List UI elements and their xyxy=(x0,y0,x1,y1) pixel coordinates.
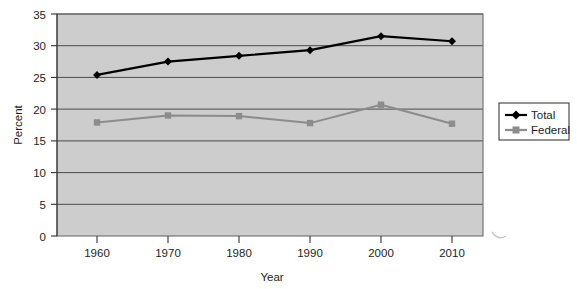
scan-artifact xyxy=(492,232,506,238)
line-chart-svg: 35 30 25 20 15 10 5 0 Percent 1960 1970 … xyxy=(0,0,577,289)
y-tick-label: 35 xyxy=(33,9,46,21)
y-tick-label: 0 xyxy=(40,231,46,243)
x-tick-label: 1990 xyxy=(297,247,323,259)
y-tick-label: 30 xyxy=(33,40,46,52)
y-tick-label: 20 xyxy=(33,104,46,116)
legend-label-federal: Federal xyxy=(531,124,570,136)
y-tick-label: 15 xyxy=(33,135,46,147)
x-tick-label: 1970 xyxy=(155,247,181,259)
x-tick-labels: 1960 1970 1980 1990 2000 2010 xyxy=(84,247,465,259)
data-point-marker xyxy=(94,119,100,125)
data-point-marker xyxy=(378,102,384,108)
y-tick-label: 5 xyxy=(40,199,46,211)
data-point-marker xyxy=(165,112,171,118)
x-tick-label: 2010 xyxy=(439,247,465,259)
x-tick-label: 2000 xyxy=(368,247,394,259)
x-axis xyxy=(97,236,452,243)
data-point-marker xyxy=(449,121,455,127)
data-point-marker xyxy=(236,113,242,119)
y-tick-label: 10 xyxy=(33,167,46,179)
square-marker-icon xyxy=(513,127,520,134)
y-tick-label: 25 xyxy=(33,72,46,84)
data-point-marker xyxy=(307,120,313,126)
plot-area-background xyxy=(57,14,483,236)
x-axis-title: Year xyxy=(260,271,283,283)
legend-label-total: Total xyxy=(531,109,555,121)
y-tick-labels: 35 30 25 20 15 10 5 0 xyxy=(33,9,46,243)
chart-figure: 35 30 25 20 15 10 5 0 Percent 1960 1970 … xyxy=(0,0,577,289)
chart-legend: Total Federal xyxy=(499,103,570,140)
y-axis xyxy=(51,14,57,236)
y-axis-title: Percent xyxy=(12,104,24,144)
x-tick-label: 1980 xyxy=(226,247,252,259)
x-tick-label: 1960 xyxy=(84,247,110,259)
